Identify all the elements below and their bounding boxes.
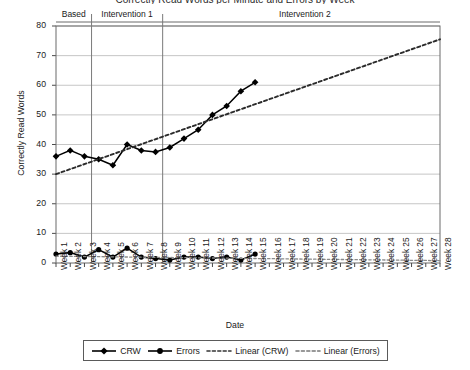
x-axis-tick-label: Week 20 [329,237,339,270]
legend-label: CRW [120,346,141,356]
x-axis-tick-label: Week 6 [130,242,140,270]
plot-area [0,0,470,370]
y-axis-tick-label: 60 [26,79,46,89]
data-point-crw [67,147,74,154]
data-point-crw [152,149,159,156]
y-axis-tick-label: 70 [26,50,46,60]
y-axis-tick-label: 40 [26,139,46,149]
dashed-line-icon [206,346,232,356]
x-axis-tick-label: Week 24 [386,237,396,270]
legend-label: Errors [176,346,200,356]
chart-title: Correctly Read Words per Minute and Erro… [0,0,470,4]
x-axis-tick-label: Week 21 [344,237,354,270]
data-point-crw [138,147,145,154]
x-axis-tick-label: Week 2 [73,242,83,270]
trendline-crw [56,39,440,174]
x-axis-tick-label: Week 23 [372,237,382,270]
y-axis-tick-label: 20 [26,198,46,208]
x-axis-tick-label: Week 4 [102,242,112,270]
x-axis-tick-label: Week 27 [429,237,439,270]
y-axis-tick-label: 30 [26,168,46,178]
x-axis-tick-label: Week 11 [201,238,211,270]
data-point-crw [81,153,88,160]
circle-marker-icon [147,346,173,356]
dashed-line-icon [295,346,321,356]
x-axis-tick-label: Week 10 [187,237,197,270]
y-axis-tick-label: 10 [26,227,46,237]
x-axis-tick-label: Week 3 [88,242,98,270]
y-axis-tick-label: 80 [26,20,46,30]
legend-item-errors[interactable]: Errors [147,346,200,356]
diamond-marker-icon [91,346,117,356]
x-axis-tick-label: Week 7 [145,242,155,270]
legend-label: Linear (Errors) [324,346,380,356]
x-axis-tick-label: Week 14 [244,237,254,270]
x-axis-tick-label: Week 25 [401,237,411,270]
x-axis-tick-label: Week 17 [287,237,297,270]
x-axis-tick-label: Week 26 [415,237,425,270]
legend-item-linear-crw[interactable]: Linear (CRW) [206,346,288,356]
x-axis-tick-label: Week 12 [216,237,226,270]
x-axis-tick-label: Week 28 [443,237,453,270]
x-axis-tick-label: Week 8 [159,242,169,270]
x-axis-tick-label: Week 1 [59,242,69,270]
x-axis-tick-label: Week 18 [301,237,311,270]
y-axis-ticks: 80706050403020100 [24,0,46,300]
data-point-crw [53,153,60,160]
x-axis-title: Date [0,320,470,330]
x-axis-tick-label: Week 22 [358,237,368,270]
legend-item-linear-errors[interactable]: Linear (Errors) [295,346,380,356]
x-axis-tick-label: Week 15 [258,237,268,270]
phase-label-based: Based [56,9,92,19]
y-axis-tick-label: 50 [26,109,46,119]
x-axis-tick-label: Week 5 [116,242,126,270]
phase-label-intervention-2: Intervention 2 [163,9,447,19]
x-axis-tick-label: Week 9 [173,242,183,270]
x-axis-tick-label: Week 19 [315,237,325,270]
chart-legend: CRWErrorsLinear (CRW)Linear (Errors) [83,340,388,361]
x-axis-tick-label: Week 16 [273,237,283,270]
legend-label: Linear (CRW) [235,346,288,356]
phase-label-intervention-1: Intervention 1 [92,9,163,19]
chart-container: Correctly Read Words per Minute and Erro… [0,0,470,370]
x-axis-tick-label: Week 13 [230,237,240,270]
legend-item-crw[interactable]: CRW [91,346,141,356]
y-axis-tick-label: 0 [26,257,46,267]
